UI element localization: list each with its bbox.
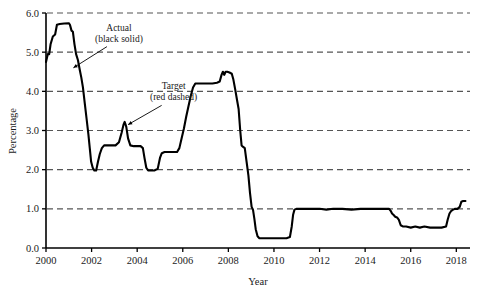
y-tick-label-5: 5.0 [26, 47, 39, 58]
interest-rate-line-chart: 0.01.02.03.04.05.06.0 200020022004200620… [0, 0, 487, 294]
y-axis-title: Percentage [7, 108, 18, 154]
x-tick-label-2000: 2000 [36, 255, 57, 266]
x-tick-label-2016: 2016 [400, 255, 421, 266]
y-tick-label-6: 6.0 [26, 8, 39, 19]
y-tick-label-2: 2.0 [26, 164, 39, 175]
y-tick-label-0: 0.0 [26, 243, 39, 254]
x-tick-label-2010: 2010 [263, 255, 284, 266]
x-tick-label-2002: 2002 [81, 255, 102, 266]
actual-annotation-line1: Actual [106, 23, 132, 33]
x-axis-title: Year [248, 276, 268, 287]
actual-annotation-line2: (black solid) [95, 34, 143, 45]
target-annotation-line1: Target [162, 81, 186, 91]
chart-figure: 0.01.02.03.04.05.06.0 200020022004200620… [0, 0, 487, 294]
x-tick-label-2014: 2014 [355, 255, 377, 266]
y-tick-label-1: 1.0 [26, 203, 39, 214]
y-tick-label-4: 4.0 [26, 86, 39, 97]
x-tick-label-2012: 2012 [309, 255, 330, 266]
x-tick-label-2004: 2004 [127, 255, 149, 266]
y-tick-label-3: 3.0 [26, 125, 39, 136]
x-tick-label-2008: 2008 [218, 255, 239, 266]
x-tick-label-2018: 2018 [446, 255, 467, 266]
target-annotation-line2: (red dashed) [150, 92, 197, 103]
x-tick-label-2006: 2006 [172, 255, 193, 266]
